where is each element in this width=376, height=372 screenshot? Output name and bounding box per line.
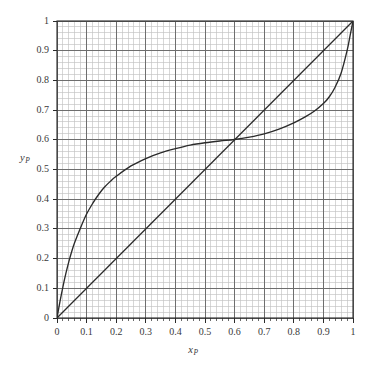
y-tick-label: 0.1 (37, 283, 50, 293)
x-tick-label: 0.3 (140, 327, 153, 337)
x-tick-label: 0.5 (199, 327, 212, 337)
y-tick-label: 0.7 (37, 105, 50, 115)
y-tick-label: 0.3 (37, 223, 50, 233)
x-tick-label: 0.8 (288, 327, 301, 337)
chart-figure: 00.10.20.30.40.50.60.70.80.91 00.10.20.3… (0, 0, 376, 372)
x-tick-label: 0.1 (80, 327, 93, 337)
x-tick-label: 0.2 (110, 327, 123, 337)
y-tick-label: 0.8 (37, 75, 50, 85)
x-tick-label: 0 (55, 327, 60, 337)
y-tick-label: 1 (44, 16, 49, 26)
y-tick-label: 0 (44, 313, 49, 323)
y-tick-label: 0.5 (37, 164, 50, 174)
y-axis-title: yP (20, 153, 29, 164)
y-tick-label: 0.9 (37, 45, 50, 55)
x-tick-label: 0.6 (228, 327, 241, 337)
y-tick-label: 0.2 (37, 253, 50, 263)
vle-equilibrium-plot (0, 0, 376, 372)
x-axis-title: xP (188, 345, 197, 356)
y-tick-label: 0.6 (37, 134, 50, 144)
x-tick-label: 1 (351, 327, 356, 337)
x-tick-label: 0.4 (169, 327, 182, 337)
x-tick-label: 0.9 (317, 327, 330, 337)
y-tick-label: 0.4 (37, 194, 50, 204)
x-tick-label: 0.7 (258, 327, 271, 337)
